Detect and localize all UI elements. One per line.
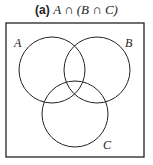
set-b-label: B <box>125 36 133 50</box>
set-a-label: A <box>13 36 22 50</box>
set-b-circle <box>64 37 130 103</box>
set-c-label: C <box>103 138 112 152</box>
set-a-circle <box>19 37 85 103</box>
set-c-circle <box>42 81 108 147</box>
venn-diagram: A B C <box>0 0 153 165</box>
